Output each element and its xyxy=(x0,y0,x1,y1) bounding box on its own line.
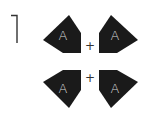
plus-operator-top: + xyxy=(85,39,95,53)
shape-letter: A xyxy=(59,81,68,96)
shape-letter: A xyxy=(59,28,68,43)
shape-bottom-left: A xyxy=(43,70,81,108)
shape-top-left: A xyxy=(43,15,81,53)
puzzle-figure: A A A A + + xyxy=(0,0,147,125)
shape-letter: A xyxy=(111,81,120,96)
shape-top-right: A xyxy=(99,15,138,53)
figure-number-one xyxy=(11,16,17,44)
shape-bottom-right: A xyxy=(99,70,138,108)
plus-operator-bottom: + xyxy=(85,71,95,85)
shape-letter: A xyxy=(111,28,120,43)
